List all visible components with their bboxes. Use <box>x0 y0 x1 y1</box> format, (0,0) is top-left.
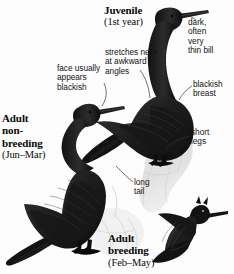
caption-juvenile-sub: (1st year) <box>104 16 143 28</box>
caption-adnb-line2: non- <box>2 124 23 136</box>
annotation-bill: dark, often very thin bill <box>188 18 213 55</box>
caption-juvenile: Juvenile (1st year) <box>104 4 143 28</box>
annotation-breast-l2: breast <box>193 89 223 98</box>
caption-juvenile-title: Juvenile <box>104 4 142 16</box>
annotation-bill-l4: thin bill <box>188 46 213 55</box>
leader-breast <box>179 86 192 100</box>
caption-adbr-sub: (Feb–May) <box>108 257 154 269</box>
annotation-breast: blackish breast <box>193 80 223 99</box>
annotation-face: face usually appears blackish <box>57 64 100 92</box>
caption-adnb-sub: (Jun–Mar) <box>2 149 45 161</box>
annotation-face-l3: blackish <box>57 83 100 92</box>
caption-adult-breeding: Adult breeding (Feb–May) <box>108 232 154 268</box>
caption-adnb-line3: breeding <box>2 137 43 149</box>
annotation-stretches-neck: stretches neck at awkward angles <box>105 48 158 76</box>
caption-adnb-line1: Adult <box>2 112 28 124</box>
leader-tail <box>116 166 133 182</box>
caption-adult-nonbreeding: Adult non- breeding (Jun–Mar) <box>2 112 45 161</box>
leader-face <box>102 83 106 106</box>
annotation-legs: short legs <box>191 128 209 147</box>
illustration-plate: Juvenile (1st year) Adult non- breeding … <box>0 0 234 274</box>
caption-adbr-line2: breeding <box>108 244 149 256</box>
annotation-legs-l2: legs <box>191 137 209 146</box>
annotation-stretch-l3: angles <box>105 67 158 76</box>
annotation-tail-l2: tail <box>134 187 150 196</box>
annotation-tail: long tail <box>134 178 150 197</box>
caption-adbr-line1: Adult <box>108 232 134 244</box>
